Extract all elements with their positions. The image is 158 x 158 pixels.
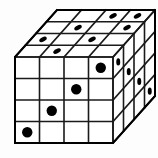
right-face-pip <box>148 88 152 95</box>
right-face-pip <box>127 68 131 75</box>
front-face-pip <box>47 106 57 116</box>
isometric-cube-figure <box>0 0 158 158</box>
right-face-pip <box>137 78 141 85</box>
cube-diagram <box>0 0 158 158</box>
front-face-pip <box>96 63 106 73</box>
right-face-pip <box>116 58 120 65</box>
front-face-pip <box>22 127 32 137</box>
front-face-pip <box>71 84 81 94</box>
